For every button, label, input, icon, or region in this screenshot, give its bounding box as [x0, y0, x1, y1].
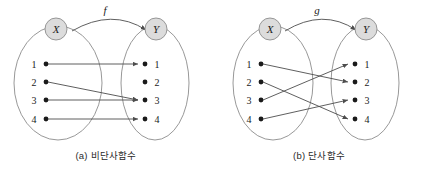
codomain-dot — [143, 117, 148, 122]
domain-element-label: 2 — [32, 77, 37, 88]
mapping-line — [263, 64, 348, 82]
domain-element-label: 2 — [247, 77, 252, 88]
domain-element-label: 1 — [32, 59, 37, 70]
domain-dot — [259, 98, 264, 103]
map-label: g — [314, 4, 320, 16]
domain-dot — [259, 62, 264, 67]
panel-b-caption: (b) 단사함수 — [213, 148, 425, 162]
codomain-dot — [143, 98, 148, 103]
domain-element-label: 3 — [247, 95, 252, 106]
map-label: f — [103, 4, 108, 16]
clipped-bottom-caption — [0, 172, 425, 181]
domain-element-label: 4 — [32, 114, 37, 125]
codomain-element-label: 3 — [155, 95, 160, 106]
domain-dot — [259, 80, 264, 85]
panel-a-canvas: X Y f 1 2 3 4 1 2 3 — [0, 0, 212, 150]
map-arc-arrow — [285, 19, 356, 31]
panel-a-caption: (a) 비단사함수 — [0, 148, 212, 162]
codomain-dot — [143, 62, 148, 67]
domain-element-label: 3 — [32, 95, 37, 106]
domain-element-label: 1 — [247, 59, 252, 70]
codomain-element-label: 3 — [365, 95, 370, 106]
mapping-line — [263, 64, 348, 100]
codomain-element-label: 1 — [365, 59, 370, 70]
codomain-dot — [353, 80, 358, 85]
codomain-dot — [143, 80, 148, 85]
panel-a: X Y f 1 2 3 4 1 2 3 — [0, 0, 212, 181]
codomain-dot — [353, 117, 358, 122]
domain-ellipse — [14, 26, 102, 140]
map-arc-arrow — [72, 19, 146, 31]
domain-label: X — [52, 23, 61, 35]
codomain-dot — [353, 62, 358, 67]
domain-dot — [259, 117, 264, 122]
panel-b-canvas: X Y g 1 2 3 4 1 2 3 4 — [213, 0, 425, 150]
codomain-element-label: 2 — [365, 77, 370, 88]
codomain-element-label: 4 — [365, 114, 370, 125]
domain-label: X — [266, 23, 275, 35]
mapping-line — [263, 82, 348, 119]
codomain-element-label: 2 — [155, 77, 160, 88]
domain-ellipse — [233, 26, 313, 140]
codomain-element-label: 4 — [155, 114, 160, 125]
codomain-dot — [353, 98, 358, 103]
codomain-element-label: 1 — [155, 59, 160, 70]
domain-dot — [44, 80, 49, 85]
panel-b: X Y g 1 2 3 4 1 2 3 4 (b) 단 — [213, 0, 425, 181]
domain-element-label: 4 — [247, 114, 252, 125]
domain-dot — [44, 62, 49, 67]
function-diagram-figure: X Y f 1 2 3 4 1 2 3 — [0, 0, 425, 181]
domain-dot — [44, 98, 49, 103]
mapping-line — [48, 82, 138, 100]
domain-dot — [44, 117, 49, 122]
